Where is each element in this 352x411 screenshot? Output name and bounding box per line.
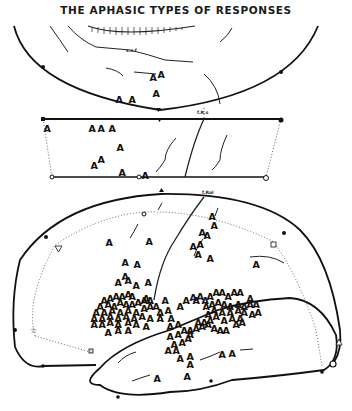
landmark-star-icon: ☆: [30, 326, 37, 335]
aphasic-response-marker: A: [115, 325, 123, 336]
aphasic-response-marker: A: [91, 319, 99, 330]
aphasic-response-marker: A: [125, 325, 133, 336]
landmark-open-circle: [264, 176, 269, 181]
aphasic-response-marker: A: [117, 142, 125, 153]
sulcus-label: s.c.f: [126, 48, 137, 53]
landmark-dot: [116, 395, 120, 399]
landmark-open-circle: [142, 212, 146, 216]
aphasic-response-marker: A: [106, 237, 114, 248]
aphasic-response-marker: A: [184, 371, 192, 382]
landmark-dot: [320, 370, 324, 374]
landmark-dot: [279, 118, 284, 123]
aphasic-response-marker: A: [98, 123, 106, 134]
aphasic-response-marker: A: [229, 348, 237, 359]
aphasic-response-marker: A: [98, 154, 106, 165]
landmark-dot: [41, 65, 45, 69]
aphasic-response-marker: A: [122, 257, 130, 268]
aphasic-response-marker: A: [142, 170, 150, 181]
landmark-triangle: [157, 118, 162, 122]
aphasic-response-marker: A: [177, 353, 185, 364]
landmark-dot: [13, 328, 17, 332]
aphasic-response-marker: A: [146, 236, 154, 247]
aphasic-response-marker: A: [44, 123, 52, 134]
aphasic-response-marker: A: [211, 220, 219, 231]
brain-map-diagram: s.c.f f.R.s: [0, 0, 352, 411]
landmark-square: [41, 117, 45, 121]
landmark-open-circle: [137, 175, 141, 179]
aphasic-response-marker: A: [237, 287, 245, 298]
aphasic-response-marker: A: [143, 321, 151, 332]
fissure-label: f.R.s: [197, 110, 209, 115]
landmark-open-triangle: [55, 246, 62, 252]
landmark-open-square: [271, 242, 276, 247]
aphasic-response-marker: A: [219, 349, 227, 360]
aphasic-response-marker: A: [158, 69, 166, 80]
aphasic-response-marker: A: [213, 311, 221, 322]
aphasic-response-marker: A: [253, 259, 261, 270]
aphasic-response-marker: A: [195, 249, 203, 260]
rolandic-label: f.Rol: [202, 190, 214, 195]
superior-view-panel: s.c.f: [14, 26, 318, 112]
aphasic-response-marker: A: [116, 94, 124, 105]
landmark-open-circle: [50, 175, 54, 179]
aphasic-response-marker: A: [223, 325, 231, 336]
aphasic-response-marker: A: [119, 167, 127, 178]
aphasic-response-marker: A: [133, 280, 141, 291]
aphasic-response-marker: A: [105, 327, 113, 338]
aphasic-response-marker: A: [150, 72, 158, 83]
landmark-triangle: [159, 188, 164, 192]
landmark-dot: [44, 235, 48, 239]
aphasic-response-marker: A: [157, 313, 165, 324]
aphasic-response-marker: A: [207, 253, 215, 264]
aphasic-response-marker: A: [134, 259, 142, 270]
landmark-dot: [209, 379, 213, 383]
aphasic-response-marker: A: [239, 317, 247, 328]
aphasic-response-marker: A: [145, 277, 153, 288]
landmark-dot: [41, 364, 45, 368]
aphasic-response-marker: A: [165, 345, 173, 356]
landmark-dot: [282, 231, 286, 235]
lateral-view-panel: ☆ f.Rol: [13, 188, 342, 399]
aphasic-response-marker: A: [255, 307, 263, 318]
aphasic-response-marker: A: [143, 293, 151, 304]
aphasic-response-marker: A: [153, 88, 161, 99]
aphasic-response-marker: A: [187, 359, 195, 370]
strip-view-panel: f.R.s: [41, 108, 284, 181]
aphasic-response-marker: A: [89, 123, 97, 134]
aphasic-response-marker: A: [125, 275, 133, 286]
landmark-dot: [279, 70, 283, 74]
aphasic-response-marker: A: [109, 123, 117, 134]
aphasic-response-marker: A: [133, 319, 141, 330]
aphasic-response-marker: A: [204, 230, 212, 241]
landmark-open-square: [89, 349, 93, 353]
landmark-open-circle: [330, 361, 336, 367]
aphasic-response-marker: A: [154, 373, 162, 384]
aphasic-response-marker: A: [129, 94, 137, 105]
